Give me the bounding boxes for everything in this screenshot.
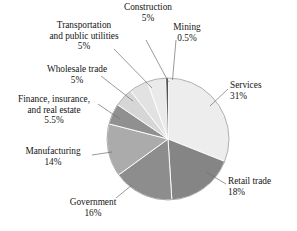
slice-label-services-pct: 31% (230, 91, 294, 102)
slice-label-government-name: Government (50, 197, 136, 208)
leader-line-mining (173, 40, 177, 80)
slice-label-wholesale-trade: Wholesale trade 5% (31, 64, 123, 85)
slice-label-retail-trade-pct: 18% (228, 187, 294, 198)
slice-label-transportation-pct: 5% (35, 41, 133, 52)
slice-label-finance-line1: Finance, insurance, (2, 94, 106, 105)
slice-label-retail-trade-name: Retail trade (228, 176, 294, 187)
slice-label-government: Government 16% (50, 197, 136, 218)
slice-label-manufacturing: Manufacturing 14% (8, 146, 98, 167)
slice-label-manufacturing-name: Manufacturing (8, 146, 98, 157)
slice-label-finance-insurance-real-estate: Finance, insurance, and real estate 5.5% (2, 94, 106, 126)
slice-label-mining-pct: 0.5% (158, 33, 216, 44)
slice-label-finance-line2: and real estate (2, 105, 106, 116)
slice-label-wholesale-trade-name: Wholesale trade (31, 64, 123, 75)
leader-line-construction (146, 40, 169, 82)
slice-label-construction-name: Construction (105, 2, 191, 13)
slice-label-mining-name: Mining (158, 22, 216, 33)
slice-label-wholesale-trade-pct: 5% (31, 75, 123, 86)
slice-label-transportation-line1: Transportation (35, 20, 133, 31)
slice-label-services-name: Services (230, 80, 294, 91)
pie-chart-figure: Construction 5% Mining 0.5% Transportati… (0, 0, 297, 231)
slice-label-government-pct: 16% (50, 208, 136, 219)
slice-label-transportation-line2: and public utilities (35, 31, 133, 42)
slice-label-transportation: Transportation and public utilities 5% (35, 20, 133, 52)
slice-label-mining: Mining 0.5% (158, 22, 216, 43)
pie-slices-group (107, 78, 229, 200)
slice-label-manufacturing-pct: 14% (8, 157, 98, 168)
slice-label-services: Services 31% (230, 80, 294, 101)
slice-label-retail-trade: Retail trade 18% (228, 176, 294, 197)
slice-label-finance-pct: 5.5% (2, 115, 106, 126)
